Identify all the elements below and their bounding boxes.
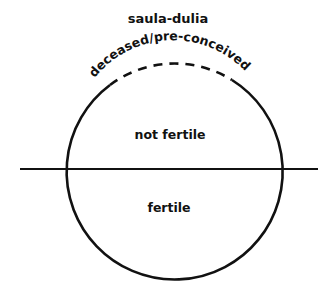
- diagram-title: saula-dulia: [128, 11, 209, 26]
- upper-region-label: not fertile: [135, 127, 206, 142]
- circle-dashed-arc: [110, 64, 232, 85]
- circle-solid-arc: [67, 80, 283, 280]
- arc-label: deceased/pre-conceived: [85, 28, 253, 80]
- life-cycle-diagram: saula-dulia deceased/pre-conceived not f…: [0, 0, 333, 291]
- lower-region-label: fertile: [147, 200, 190, 215]
